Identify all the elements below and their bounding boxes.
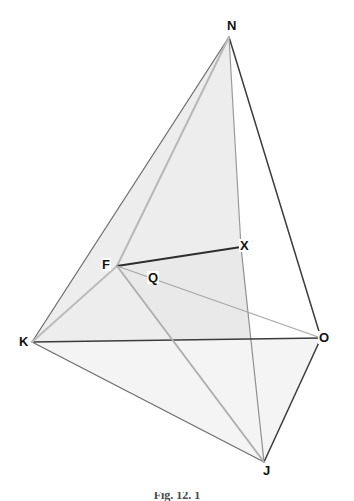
figure-caption: Fig. 12. 1: [0, 492, 354, 501]
vertex-label-o: O: [318, 331, 330, 344]
vertex-label-j: J: [262, 464, 271, 477]
geometry-figure: N K O J F X Q Fig. 12. 1: [0, 0, 354, 501]
face-k-j-o-base: [32, 338, 321, 462]
geometry-canvas: [0, 0, 354, 501]
vertex-label-x: X: [239, 239, 250, 252]
vertex-label-k: K: [18, 335, 29, 348]
vertex-label-n: N: [226, 19, 237, 32]
shaded-faces-group: [32, 37, 321, 462]
figure-caption-strip: Fig. 12. 1: [0, 492, 354, 501]
vertex-label-f: F: [101, 258, 111, 271]
vertex-label-q: Q: [147, 271, 159, 284]
